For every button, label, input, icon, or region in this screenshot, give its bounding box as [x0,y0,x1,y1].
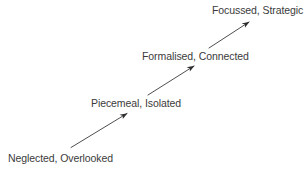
stage-label-focussed: Focussed, Strategic [212,4,303,17]
progression-diagram: Neglected, Overlooked Piecemeal, Isolate… [0,0,305,178]
stage-label-formalised: Formalised, Connected [142,50,249,63]
arrow-1 [71,114,127,148]
stage-label-neglected: Neglected, Overlooked [8,152,113,165]
stage-label-piecemeal: Piecemeal, Isolated [91,97,181,110]
arrow-3 [209,22,249,48]
arrow-2 [148,66,194,95]
